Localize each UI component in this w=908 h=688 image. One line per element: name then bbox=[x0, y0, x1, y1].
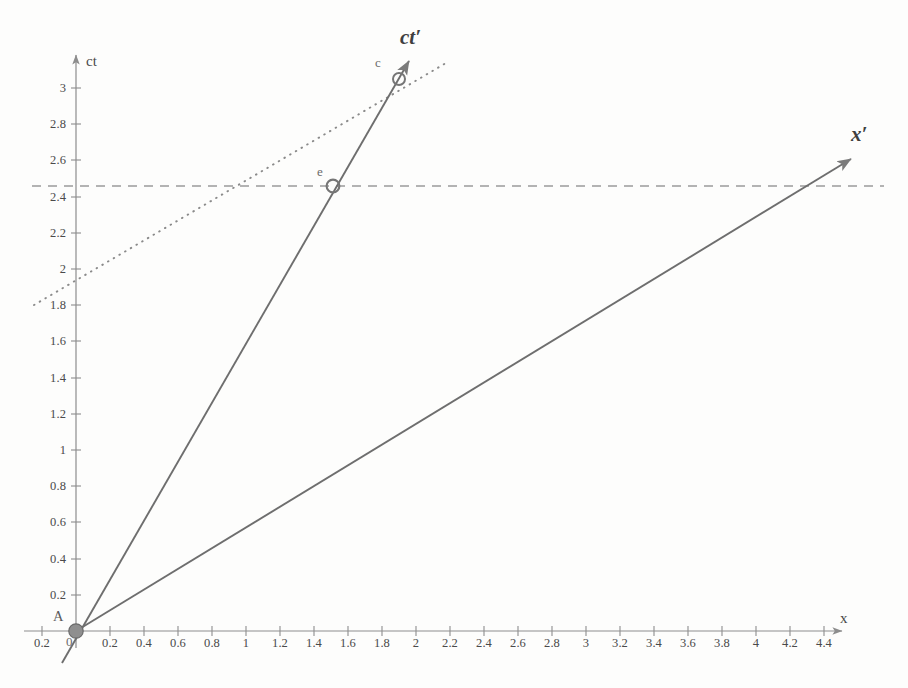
ct-tick-label: 0.4 bbox=[50, 552, 66, 567]
x-tick-label: 4 bbox=[753, 636, 759, 651]
ct-tick-label: 1.4 bbox=[50, 371, 66, 386]
ct-tick-label: 1.2 bbox=[50, 407, 66, 422]
x-tick-label: 1 bbox=[243, 636, 249, 651]
ct-tick-label: 2.8 bbox=[50, 117, 66, 132]
x-prime-axis-line bbox=[76, 159, 851, 631]
x-tick-label: 3.4 bbox=[646, 636, 662, 651]
diagram-canvas bbox=[0, 0, 908, 688]
axis-group bbox=[24, 55, 842, 648]
ct-tick-label: 2.6 bbox=[50, 153, 66, 168]
x-axis-label: x bbox=[840, 610, 848, 627]
x-tick-label: 0.8 bbox=[204, 636, 220, 651]
x-tick-label: 1.8 bbox=[374, 636, 390, 651]
point-label-A: A bbox=[53, 608, 63, 625]
x-prime-axis-label: x′ bbox=[851, 122, 867, 147]
ct-tick-label: 2 bbox=[60, 262, 66, 277]
point-label-e: e bbox=[317, 164, 323, 180]
x-tick-label: 4.4 bbox=[816, 636, 832, 651]
ct-prime-axis-line bbox=[62, 61, 409, 663]
ct-tick-label: 1 bbox=[60, 443, 66, 458]
ct-axis-label: ct bbox=[86, 53, 97, 70]
ct-tick-label: 2.4 bbox=[50, 190, 66, 205]
ct-tick-label: 0.2 bbox=[50, 588, 66, 603]
x-tick-label: 2.2 bbox=[442, 636, 458, 651]
x-tick-label: 1.4 bbox=[306, 636, 322, 651]
point-markers bbox=[69, 73, 405, 638]
x-tick-label: 0.2 bbox=[34, 636, 50, 651]
x-tick-label: 2 bbox=[413, 636, 419, 651]
x-tick-label: 1.6 bbox=[340, 636, 356, 651]
dotted-simultaneity-line-xprime bbox=[34, 63, 446, 305]
x-tick-label: 3 bbox=[583, 636, 589, 651]
x-tick-label: 2.4 bbox=[476, 636, 492, 651]
ct-tick-label: 0.6 bbox=[50, 515, 66, 530]
x-tick-label: 1.2 bbox=[272, 636, 288, 651]
x-tick-label: 0.2 bbox=[102, 636, 118, 651]
x-tick-label: 3.8 bbox=[714, 636, 730, 651]
spacetime-diagram-figure: ct x ct′ x′ A 0 e c 0.20.20.40.60.811.21… bbox=[0, 0, 908, 688]
ct-tick-label: 1.8 bbox=[50, 298, 66, 313]
point-label-c: c bbox=[375, 55, 381, 71]
x-tick-label: 0.6 bbox=[170, 636, 186, 651]
ct-tick-label: 2.2 bbox=[50, 226, 66, 241]
x-tick-label: 3.2 bbox=[612, 636, 628, 651]
ct-prime-axis-label: ct′ bbox=[400, 25, 421, 50]
ct-tick-label: 0.8 bbox=[50, 479, 66, 494]
x-tick-label: 0.4 bbox=[136, 636, 152, 651]
x-tick-label: 2.6 bbox=[510, 636, 526, 651]
ct-tick-label: 1.6 bbox=[50, 334, 66, 349]
x-tick-label: 2.8 bbox=[544, 636, 560, 651]
x-tick-label: 4.2 bbox=[782, 636, 798, 651]
ct-tick-label: 3 bbox=[60, 81, 66, 96]
point-label-origin: 0 bbox=[66, 634, 73, 650]
x-tick-label: 3.6 bbox=[680, 636, 696, 651]
